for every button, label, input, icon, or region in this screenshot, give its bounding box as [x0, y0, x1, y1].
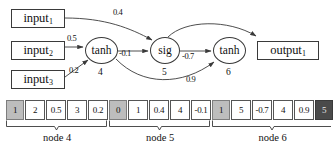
hidden-node-6-index: 6 [226, 68, 231, 78]
genome-cell[interactable]: 1 [6, 100, 24, 120]
genome-cell[interactable]: 1 [212, 100, 230, 120]
input-node-1: input1 [11, 9, 65, 28]
edge-weight-node5-node6: -0.7 [182, 52, 194, 61]
hidden-node-4-index: 4 [98, 68, 103, 78]
hidden-node-6-activation: tanh [220, 45, 240, 57]
input-node-2: input2 [11, 41, 65, 60]
hidden-node-5-index: 5 [162, 68, 167, 78]
group-label-node-4: node 4 [43, 133, 71, 144]
genome-cell[interactable]: 5 [231, 100, 251, 120]
genome-cell[interactable]: 3 [67, 100, 87, 120]
input-node-2-label: input [23, 44, 48, 57]
genome-cell[interactable]: 1 [128, 100, 148, 120]
genome-cell[interactable]: 0 [109, 100, 127, 120]
hidden-node-5-activation: sig [158, 45, 171, 57]
genome-cell[interactable]: 4 [170, 100, 190, 120]
group-bracket [213, 121, 332, 131]
genome-cell[interactable]: -0.7 [252, 100, 272, 120]
group-brackets-layer [0, 118, 331, 132]
edge-weight-node4-node5: -0.1 [119, 49, 131, 58]
genome-cell[interactable]: 4 [273, 100, 293, 120]
input-node-3: input3 [11, 70, 65, 89]
input-node-1-label: input [23, 12, 48, 25]
output-node-1: output1 [257, 41, 319, 60]
group-bracket [110, 121, 210, 131]
group-label-node-5: node 5 [146, 133, 174, 144]
genome-array: 120.530.2010.44-0.115-0.740.95 [6, 100, 334, 120]
output-node-1-label: output [270, 44, 301, 57]
edge-weight-input3-node4: 0.2 [69, 66, 78, 75]
group-label-node-6: node 6 [259, 133, 287, 144]
genome-cell[interactable]: -0.1 [191, 100, 211, 120]
edge-input1-node5 [65, 18, 152, 40]
hidden-node-4: tanh [85, 37, 118, 64]
genome-cell[interactable]: 0.5 [46, 100, 66, 120]
genome-cell[interactable]: 2 [25, 100, 45, 120]
hidden-node-6: tanh [213, 37, 246, 64]
group-bracket [7, 121, 107, 131]
hidden-node-4-activation: tanh [92, 45, 112, 57]
edge-weight-input1-node5: 0.4 [113, 8, 122, 17]
edge-weight-node4-node6: 0.9 [186, 75, 195, 84]
hidden-node-5: sig [150, 37, 180, 64]
genome-cell[interactable]: 0.2 [88, 100, 108, 120]
genome-cell[interactable]: 0.9 [294, 100, 314, 120]
genome-cell[interactable]: 0.4 [149, 100, 169, 120]
genome-cell[interactable]: 5 [315, 100, 333, 120]
input-node-3-label: input [23, 73, 48, 86]
edge-weight-input2-node4: 0.5 [67, 34, 76, 43]
edge-node6-output1 [168, 24, 256, 37]
